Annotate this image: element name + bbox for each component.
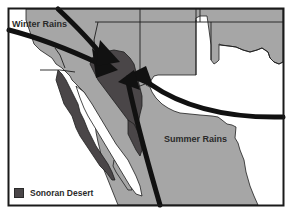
legend-swatch-sonoran-desert	[14, 188, 24, 198]
summer-rains-label: Summer Rains	[164, 134, 227, 144]
winter-rains-label: Winter Rains	[12, 19, 67, 29]
legend-label: Sonoran Desert	[30, 188, 93, 198]
sonoran-desert-rainfall-map: Winter Rains Summer Rains Sonoran Desert	[0, 0, 290, 212]
map-canvas	[0, 0, 290, 212]
legend: Sonoran Desert	[14, 188, 93, 198]
